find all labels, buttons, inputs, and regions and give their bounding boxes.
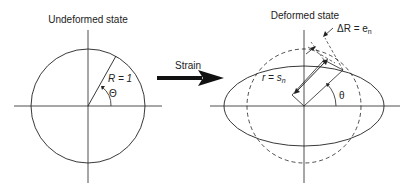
radius-label: R = 1 (108, 73, 132, 84)
arrow-shaft (157, 76, 202, 80)
angle-arc (327, 84, 336, 106)
delta-r-label: ΔR = en (337, 23, 372, 35)
extension-dashed (311, 42, 324, 60)
undeformed-title: Undeformed state (48, 14, 128, 25)
undeformed-panel: Undeformed state R = 1 Θ (14, 14, 162, 183)
deformed-panel: Deformed state θ ΔR = en r = sn (210, 10, 400, 183)
theta-label: Θ (109, 88, 117, 99)
strain-diagram: Undeformed state R = 1 Θ Strain Deformed… (0, 0, 411, 193)
theta-label: θ (339, 90, 345, 101)
strain-arrow: Strain (157, 60, 224, 86)
element-base (292, 95, 304, 106)
arrowhead-icon (323, 31, 328, 37)
strain-label: Strain (175, 60, 201, 71)
deformed-title: Deformed state (271, 10, 340, 21)
r-label: r = sn (262, 72, 286, 84)
